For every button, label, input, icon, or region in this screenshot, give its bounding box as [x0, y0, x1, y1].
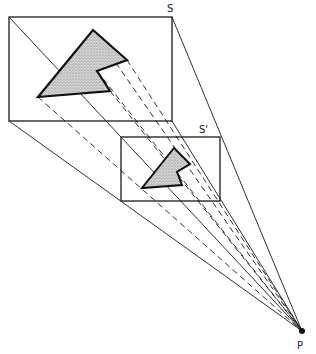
object-shape-large — [38, 30, 127, 97]
label-point-p: P — [297, 340, 303, 351]
label-plane-s: S — [167, 3, 173, 14]
projection-point-dot — [299, 328, 305, 334]
dashed-ray-left — [38, 97, 302, 331]
label-plane-s-prime: S' — [199, 124, 208, 135]
perspective-projection-diagram: S S' P — [0, 0, 316, 354]
